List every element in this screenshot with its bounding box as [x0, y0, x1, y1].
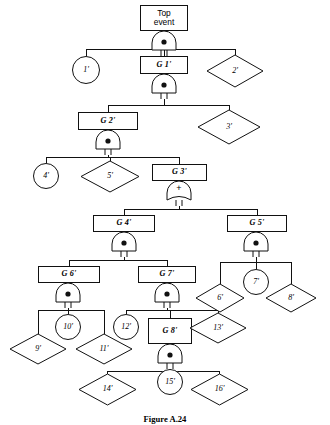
event-box-g4: G 4' [93, 215, 155, 232]
gate-and-gate-g7 [155, 283, 179, 308]
gate-and-gate-g8 [158, 344, 182, 369]
event-box-g5: G 5' [227, 215, 287, 232]
event-box-g1: G 1' [140, 56, 188, 74]
undeveloped-event-n2: 2' [207, 55, 263, 87]
gate-and-gate-g4 [112, 232, 136, 257]
gate-and-gate-g2 [96, 130, 120, 155]
basic-event-n12: 12' [113, 314, 139, 340]
event-box-g2: G 2' [78, 112, 138, 130]
event-box-g8: G 8' [148, 318, 192, 344]
gate-or-gate-g3: + [167, 181, 191, 206]
undeveloped-event-label: 3' [226, 123, 232, 131]
basic-event-n4: 4' [33, 163, 59, 189]
gate-and-gate-g1 [152, 74, 176, 99]
undeveloped-event-label: 5' [107, 172, 113, 180]
event-box-top: Topevent [140, 5, 188, 31]
undeveloped-event-n8: 8' [266, 284, 316, 312]
undeveloped-event-n9: 9' [10, 334, 66, 364]
undeveloped-event-label: 11' [99, 345, 108, 353]
undeveloped-event-label: 9' [35, 345, 41, 353]
basic-event-n1: 1' [72, 56, 100, 84]
undeveloped-event-n6: 6' [196, 284, 244, 312]
figure-caption: Figure A.24 [0, 414, 330, 424]
undeveloped-event-label: 6' [217, 294, 223, 302]
undeveloped-event-label: 13' [213, 324, 223, 332]
undeveloped-event-label: 16' [215, 385, 225, 393]
undeveloped-event-label: 2' [232, 67, 238, 75]
undeveloped-event-n14: 14' [79, 374, 136, 405]
gate-symbol: + [167, 184, 191, 193]
gate-and-gate-g5 [244, 232, 268, 257]
undeveloped-event-n13: 13' [190, 313, 246, 343]
undeveloped-event-label: 14' [103, 385, 113, 393]
event-box-g6: G 6' [38, 266, 100, 283]
gate-and-gate-top [152, 31, 176, 56]
gate-and-gate-g6 [56, 283, 80, 308]
fault-tree-figure: TopeventG 1'1'2'G 2'3'4'5'G 3'G 4'G 5'G … [0, 0, 330, 425]
undeveloped-event-label: 8' [288, 294, 294, 302]
undeveloped-event-n3: 3' [198, 110, 260, 144]
event-box-g7: G 7' [138, 266, 196, 283]
undeveloped-event-n16: 16' [191, 374, 248, 405]
event-box-g3: G 3' [152, 164, 207, 181]
undeveloped-event-n5: 5' [81, 161, 139, 192]
basic-event-n15: 15' [157, 369, 183, 395]
